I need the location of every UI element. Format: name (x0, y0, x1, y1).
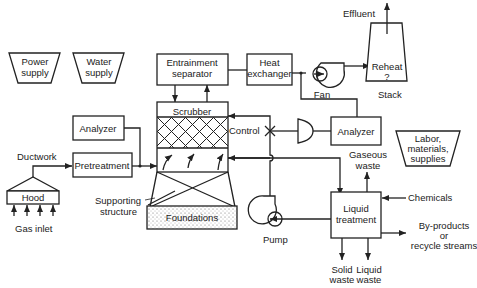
heat-exchanger-block: Heat exchanger (247, 54, 292, 85)
supporting-structure (148, 172, 235, 207)
labor-materials-resource: Labor, materials, supplies (396, 131, 460, 166)
power-supply-label-2: supply (21, 67, 49, 78)
ductwork-line (33, 166, 72, 178)
hood-label: Hood (22, 192, 45, 203)
heat-exchanger-label-2: exchanger (247, 68, 291, 79)
gas-inlet-arrows (14, 205, 53, 216)
entrainment-label-1: Entrainment (166, 57, 218, 68)
scrubber-column: Scrubber (157, 102, 228, 172)
analyzer-left-label: Analyzer (80, 123, 117, 134)
controller-icon (298, 119, 313, 143)
water-supply-label-1: Water (87, 56, 112, 67)
analyzer-left-block: Analyzer (73, 116, 124, 140)
pump-label: Pump (263, 234, 288, 245)
labor-label-3: supplies (411, 153, 446, 164)
hood-block: Hood (7, 177, 59, 204)
gas-inlet-label: Gas inlet (15, 223, 53, 234)
water-supply-label-2: supply (85, 67, 113, 78)
entrainment-label-2: separator (172, 68, 212, 79)
chemicals-label: Chemicals (408, 192, 453, 203)
entrainment-separator-block: Entrainment separator (157, 54, 228, 85)
gaseous-waste-label-2: waste (355, 160, 381, 171)
scrubber-to-treatment-line (228, 158, 340, 195)
power-supply-label-1: Power (22, 56, 49, 67)
foundations-block: Foundations (147, 206, 237, 229)
heat-exchanger-label-1: Heat (259, 57, 279, 68)
process-diagram: Power supply Water supply Entrainment se… (0, 0, 477, 288)
fan-icon (313, 63, 344, 87)
pretreatment-label: Pretreatment (75, 160, 130, 171)
byproducts-label-3: recycle streams (411, 240, 477, 251)
scrubber-label: Scrubber (173, 106, 212, 117)
liquid-treatment-block: Liquid treatment (331, 192, 381, 238)
water-supply-resource: Water supply (73, 53, 124, 83)
supporting-label-2: structure (100, 206, 137, 217)
power-supply-resource: Power supply (9, 53, 60, 83)
liquid-treatment-label-2: treatment (336, 214, 376, 225)
pump-icon (248, 196, 331, 226)
foundations-label: Foundations (166, 212, 219, 223)
liquid-waste-label-2: waste (356, 274, 382, 285)
analyzer-right-label: Analyzer (338, 126, 375, 137)
supporting-label-1: Supporting (95, 195, 141, 206)
reheat-question: ? (384, 71, 389, 82)
gaseous-waste-label-1: Gaseous (349, 149, 387, 160)
stack-label: Stack (378, 89, 402, 100)
solid-waste-label-2: waste (329, 274, 355, 285)
effluent-label: Effluent (343, 8, 375, 19)
control-label: Control (229, 125, 260, 136)
analyzer-right-block: Analyzer (331, 117, 381, 145)
pretreatment-block: Pretreatment (73, 153, 132, 177)
ductwork-label: Ductwork (17, 151, 57, 162)
liquid-treatment-label-1: Liquid (343, 203, 368, 214)
